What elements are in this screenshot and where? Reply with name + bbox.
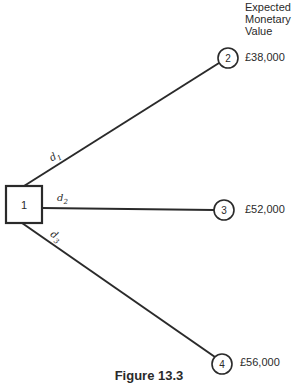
emv-value-node-2: £38,000 xyxy=(245,51,285,63)
figure-caption: Figure 13.3 xyxy=(0,368,298,383)
branch-label-d2: d2 xyxy=(57,192,68,206)
outcome-node-2-label: 2 xyxy=(225,53,231,64)
branch-label-d2-subscript: 2 xyxy=(63,198,67,206)
emv-column-header: Expected Monetary Value xyxy=(245,1,291,37)
branch-line-d1 xyxy=(24,63,219,186)
emv-value-node-3: £52,000 xyxy=(245,203,285,215)
branch-line-d2 xyxy=(42,208,214,210)
decision-node-1-label: 1 xyxy=(21,199,27,211)
emv-value-node-4: £56,000 xyxy=(240,356,280,368)
outcome-node-3-label: 3 xyxy=(221,205,227,216)
